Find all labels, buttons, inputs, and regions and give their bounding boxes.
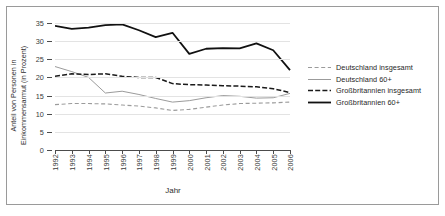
x-tick-1996: 1996 xyxy=(119,154,128,171)
gridline xyxy=(55,96,290,97)
x-tick-2002: 2002 xyxy=(219,154,228,171)
gridline xyxy=(55,114,290,115)
legend-label: Deutschland 60+ xyxy=(336,75,392,84)
y-tick-20: 20 xyxy=(36,73,44,82)
y-tick-mark xyxy=(47,23,52,24)
x-tick-1993: 1993 xyxy=(68,154,77,171)
x-tick-2005: 2005 xyxy=(270,154,279,171)
y-axis-tick-labels: 35 30 25 20 15 10 5 0 xyxy=(18,0,44,216)
y-tick-mark xyxy=(47,96,52,97)
gridlines xyxy=(55,23,290,150)
y-tick-mark xyxy=(47,59,52,60)
legend-swatch-icon xyxy=(308,63,331,72)
plot-area xyxy=(55,23,290,150)
x-tick-1995: 1995 xyxy=(102,154,111,171)
x-tick-1992: 1992 xyxy=(51,154,60,171)
legend-item-0[interactable]: Deutschland insgesamt xyxy=(308,62,438,74)
gridline xyxy=(55,23,290,24)
y-tick-mark xyxy=(47,150,52,151)
y-tick-mark xyxy=(47,41,52,42)
y-tick-10: 10 xyxy=(36,109,44,118)
chart-figure: Anteil von Personen in Einkommensarmut (… xyxy=(0,0,445,216)
y-tick-30: 30 xyxy=(36,37,44,46)
chart-legend: Deutschland insgesamtDeutschland 60+Groß… xyxy=(308,62,438,108)
x-tick-2004: 2004 xyxy=(253,154,262,171)
gridline xyxy=(55,132,290,133)
x-tick-1999: 1999 xyxy=(169,154,178,171)
legend-swatch-icon xyxy=(308,98,331,107)
legend-label: Großbritannien 60+ xyxy=(336,98,400,107)
gridline xyxy=(55,41,290,42)
x-tick-2006: 2006 xyxy=(286,154,295,171)
legend-swatch-icon xyxy=(308,86,331,95)
legend-label: Deutschland insgesamt xyxy=(336,63,413,72)
legend-swatch-icon xyxy=(308,75,331,84)
x-tick-1997: 1997 xyxy=(135,154,144,171)
x-tick-2003: 2003 xyxy=(236,154,245,171)
gridline xyxy=(55,77,290,78)
x-tick-1994: 1994 xyxy=(85,154,94,171)
y-tick-0: 0 xyxy=(40,146,44,155)
y-tick-mark xyxy=(47,114,52,115)
legend-label: Großbritannien insgesamt xyxy=(336,86,421,95)
x-tick-1998: 1998 xyxy=(152,154,161,171)
y-tick-25: 25 xyxy=(36,55,44,64)
x-tick-2001: 2001 xyxy=(203,154,212,171)
x-axis-title: Jahr xyxy=(55,186,291,195)
y-tick-mark xyxy=(47,132,52,133)
y-tick-mark xyxy=(47,77,52,78)
legend-item-1[interactable]: Deutschland 60+ xyxy=(308,74,438,86)
y-tick-15: 15 xyxy=(36,91,44,100)
y-tick-5: 5 xyxy=(40,127,44,136)
x-tick-2000: 2000 xyxy=(186,154,195,171)
legend-item-3[interactable]: Großbritannien 60+ xyxy=(308,97,438,109)
legend-item-2[interactable]: Großbritannien insgesamt xyxy=(308,85,438,97)
y-tick-35: 35 xyxy=(36,19,44,28)
gridline xyxy=(55,59,290,60)
